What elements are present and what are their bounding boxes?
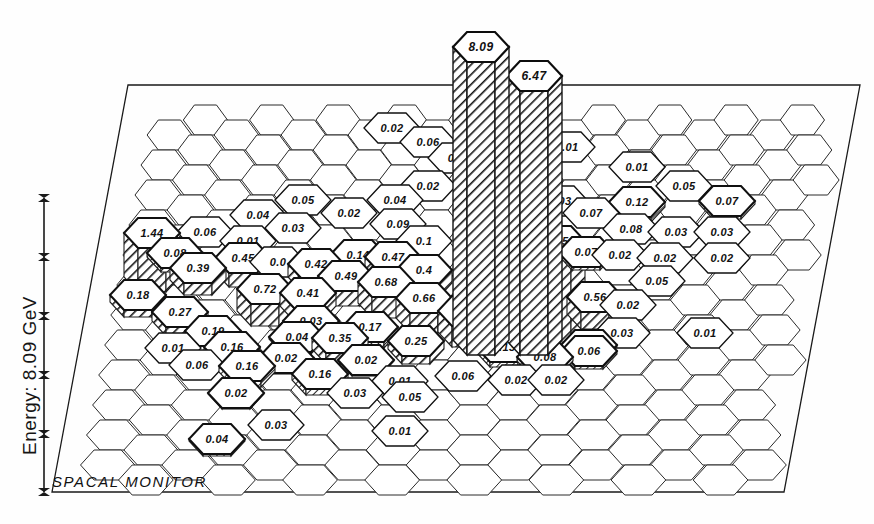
cell-value-label: 0.01	[693, 327, 716, 339]
spacal-energy-plot: Energy: 8.09 GeV 0.020.060.010.00.010.02…	[0, 0, 874, 524]
cell-value-label: 0.07	[579, 207, 602, 219]
cell-value-label: 0.18	[126, 289, 149, 301]
cell-value-label: 0.68	[374, 276, 397, 288]
cell-value-label: 0.25	[404, 335, 427, 347]
cell-value-label: 0.06	[416, 136, 439, 148]
cell-value-label: 0.41	[296, 287, 319, 299]
energy-axis-label: Energy: 8.09 GeV	[19, 296, 40, 455]
cell-value-label: 0.02	[354, 354, 377, 366]
cell-value-label: 0.06	[577, 345, 600, 357]
cell-value-label: 0.06	[185, 359, 208, 371]
cell-value-label: 0.05	[291, 194, 314, 206]
cell-side-wall	[124, 310, 152, 317]
cell-value-label: 0.03	[664, 226, 687, 238]
tower-side-wall	[467, 62, 495, 355]
cell-side-wall	[184, 283, 212, 295]
tower-bar-809[interactable]: 8.09	[453, 32, 509, 355]
cell-value-label: 0.02	[504, 374, 527, 386]
cell-value-label: 0.07	[715, 195, 738, 207]
footer-label: SPACAL MONITOR	[52, 473, 207, 490]
tower-bar-647[interactable]: 6.47	[506, 61, 562, 355]
cell-value-label: 0.16	[308, 368, 331, 380]
cell-value-label: 0.03	[710, 226, 733, 238]
cell-value-label: 0.02	[416, 180, 439, 192]
tower-value-label: 6.47	[522, 69, 548, 83]
tower-side-wall	[495, 47, 509, 355]
cell-side-wall	[402, 356, 430, 364]
cell-value-label: 0.01	[388, 425, 411, 437]
cell-value-label: 0.04	[246, 209, 269, 221]
cell-value-label: 0.04	[285, 331, 308, 343]
cell-value-label: 0.02	[608, 249, 631, 261]
tower-value-label: 8.09	[469, 40, 494, 54]
cell-value-label: 0.1	[416, 235, 433, 247]
cell-value-label: 0.08	[619, 223, 642, 235]
cell-value-label: 0.02	[337, 207, 360, 219]
cell-value-label: 1.44	[140, 227, 163, 239]
cell-side-wall	[251, 304, 279, 326]
cell-value-label: 0.02	[710, 252, 733, 264]
cell-value-label: 0.02	[544, 374, 567, 386]
energy-towers: 6.478.09	[453, 32, 562, 355]
hex-cell-c-039[interactable]: 0.39	[170, 253, 226, 295]
tower-side-wall	[548, 76, 562, 355]
cell-value-label: 0.04	[383, 194, 406, 206]
cell-value-label: 0.12	[625, 196, 648, 208]
cell-value-label: 0.0	[270, 256, 287, 268]
spacal-monitor-window: Energy: 8.09 GeV 0.020.060.010.00.010.02…	[0, 0, 874, 524]
cell-value-label: 0.27	[168, 306, 191, 318]
cell-value-label: 0.03	[343, 387, 366, 399]
cell-value-label: 0.05	[645, 275, 668, 287]
cell-value-label: 0.02	[380, 122, 403, 134]
tower-side-wall	[520, 91, 548, 355]
cell-value-label: 0.02	[274, 352, 297, 364]
cell-value-label: 0.01	[625, 161, 648, 173]
hex-cell-c-025[interactable]: 0.25	[388, 326, 444, 364]
cell-value-label: 0.05	[398, 391, 421, 403]
cell-value-label: 0.49	[334, 270, 357, 282]
cell-value-label: 0.39	[186, 262, 209, 274]
cell-value-label: 0.66	[412, 292, 435, 304]
cell-value-label: 0.05	[672, 180, 695, 192]
cell-value-label: 0.03	[264, 419, 287, 431]
cell-value-label: 0.02	[224, 387, 247, 399]
cell-value-label: 0.06	[193, 226, 216, 238]
cell-value-label: 0.04	[205, 433, 228, 445]
tower-side-wall	[453, 47, 467, 355]
cell-value-label: 0.06	[451, 370, 474, 382]
cell-value-label: 0.02	[653, 252, 676, 264]
cell-value-label: 0.72	[253, 283, 276, 295]
cell-value-label: 0.09	[386, 218, 409, 230]
cell-value-label: 0.16	[235, 360, 258, 372]
cell-value-label: 0.03	[610, 327, 633, 339]
cell-value-label: 0.47	[381, 251, 404, 263]
cell-value-label: 0.35	[328, 332, 351, 344]
cell-value-label: 0.03	[281, 222, 304, 234]
cell-value-label: 0.4	[416, 264, 433, 276]
cell-value-label: 0.02	[616, 299, 639, 311]
